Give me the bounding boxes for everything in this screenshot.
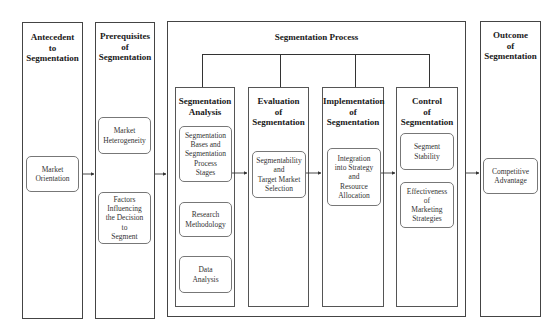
- segmentability-box: Segmentability and Target Market Selecti…: [252, 151, 306, 198]
- integration-box: Integration into Strategy and Resource A…: [327, 148, 381, 206]
- market-orientation-box: Market Orientation: [26, 156, 79, 192]
- process-tree-drop-1: [202, 54, 203, 87]
- implementation-title: Implementation of Segmentation: [323, 96, 383, 128]
- segmentation-process-title: Segmentation Process: [167, 32, 466, 42]
- factors-influencing-box: Factors Influencing the Decision to Segm…: [98, 192, 151, 244]
- research-methodology-box: Research Methodology: [179, 202, 232, 237]
- segmentation-analysis-title: Segmentation Analysis: [176, 96, 234, 117]
- process-tree-drop-2: [280, 54, 281, 87]
- market-heterogeneity-box: Market Heterogeneity: [98, 117, 151, 154]
- process-tree-bar: [202, 54, 430, 55]
- evaluation-title: Evaluation of Segmentation: [249, 96, 308, 128]
- effectiveness-box: Effectiveness of Marketing Strategies: [400, 182, 454, 228]
- prerequisites-column: Prerequisites of Segmentation: [95, 22, 155, 319]
- segment-stability-box: Segment Stability: [400, 133, 454, 170]
- outcome-title: Outcome of Segmentation: [481, 30, 540, 62]
- segmentation-bases-box: Segmentation Bases and Segmentation Proc…: [179, 126, 232, 182]
- competitive-advantage-box: Competitive Advantage: [483, 158, 538, 194]
- prerequisites-title: Prerequisites of Segmentation: [96, 31, 154, 63]
- antecedent-title: Antecedent to Segmentation: [23, 32, 82, 64]
- process-tree-drop-4: [429, 54, 430, 87]
- control-title: Control of Segmentation: [397, 96, 457, 128]
- process-tree-drop-3: [355, 54, 356, 87]
- data-analysis-box: Data Analysis: [179, 256, 232, 293]
